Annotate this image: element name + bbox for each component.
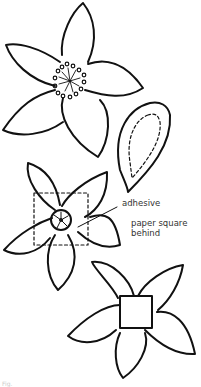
paper-square-label: paper square behind	[131, 218, 201, 238]
wheel-center-icon	[51, 210, 71, 230]
figure-caption: Fig.	[2, 380, 12, 387]
flower-2	[4, 163, 120, 290]
adhesive-label: adhesive	[122, 198, 160, 208]
petal-template	[118, 103, 170, 193]
adhesive-pointer	[78, 207, 117, 227]
paper-square	[120, 296, 152, 328]
flower-3	[68, 262, 195, 378]
flower-1	[3, 3, 143, 157]
stamen-icon	[53, 62, 86, 99]
flower-diagram	[0, 0, 201, 387]
